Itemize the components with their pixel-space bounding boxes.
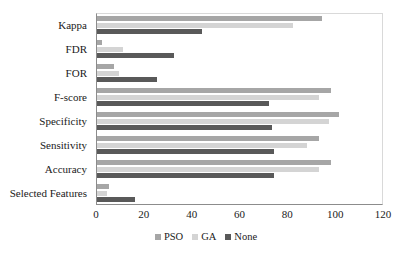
bar-pso (97, 136, 319, 141)
legend-label: None (234, 232, 257, 243)
x-axis-tick: 20 (138, 207, 149, 221)
bar-ga (97, 71, 119, 76)
legend-swatch-icon (225, 234, 231, 240)
bar-group (96, 181, 383, 205)
y-axis-category-labels: KappaFDRFORF-scoreSpecificitySensitivity… (0, 13, 92, 205)
y-axis-label: FDR (0, 37, 92, 61)
y-axis-label: Accuracy (0, 157, 92, 181)
bar-group (96, 61, 383, 85)
x-axis-tick-labels: 020406080100120 (0, 207, 412, 223)
x-axis-tick: 80 (282, 207, 293, 221)
bar-ga (97, 119, 329, 124)
bar-none (97, 77, 157, 82)
bar-ga (97, 47, 123, 52)
bar-none (97, 101, 269, 106)
legend-item-pso[interactable]: PSO (155, 232, 183, 243)
bar-none (97, 29, 202, 34)
bar-group (96, 85, 383, 109)
legend-item-none[interactable]: None (225, 232, 257, 243)
y-axis-label: Kappa (0, 13, 92, 37)
bar-none (97, 197, 135, 202)
bar-group (96, 157, 383, 181)
legend-label: GA (201, 232, 216, 243)
bar-ga (97, 23, 293, 28)
x-axis-tick: 100 (327, 207, 344, 221)
y-axis-label: FOR (0, 61, 92, 85)
bar-ga (97, 143, 307, 148)
x-axis-tick: 120 (375, 207, 392, 221)
legend-label: PSO (164, 232, 183, 243)
bar-group (96, 37, 383, 61)
bar-group (96, 133, 383, 157)
y-axis-label: Selected Features (0, 181, 92, 205)
y-axis-label: Sensitivity (0, 133, 92, 157)
bar-ga (97, 167, 319, 172)
bar-ga (97, 191, 107, 196)
x-axis-tick: 40 (186, 207, 197, 221)
bar-group (96, 13, 383, 37)
x-axis-tick: 60 (234, 207, 245, 221)
bar-pso (97, 16, 322, 21)
legend-swatch-icon (192, 234, 198, 240)
bar-group (96, 109, 383, 133)
bar-pso (97, 64, 114, 69)
bar-none (97, 173, 274, 178)
bar-ga (97, 95, 319, 100)
y-axis-label: F-score (0, 85, 92, 109)
bar-none (97, 125, 272, 130)
bar-pso (97, 40, 102, 45)
x-axis-tick: 0 (93, 207, 99, 221)
legend-item-ga[interactable]: GA (192, 232, 216, 243)
legend-swatch-icon (155, 234, 161, 240)
bar-none (97, 53, 174, 58)
bar-pso (97, 184, 109, 189)
bar-pso (97, 88, 331, 93)
bar-pso (97, 160, 331, 165)
y-axis-label: Specificity (0, 109, 92, 133)
chart-legend: PSOGANone (0, 232, 412, 243)
bar-pso (97, 112, 339, 117)
bar-none (97, 149, 274, 154)
bar-groups (96, 13, 383, 205)
bar-chart: KappaFDRFORF-scoreSpecificitySensitivity… (0, 0, 412, 260)
